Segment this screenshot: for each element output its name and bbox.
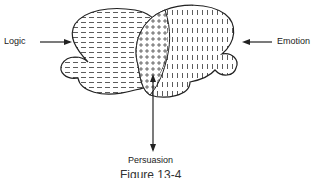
emotion-label: Emotion <box>277 36 310 46</box>
persuasion-label: Persuasion <box>128 155 173 165</box>
logic-label: Logic <box>4 36 26 46</box>
venn-diagram <box>0 0 313 178</box>
figure-caption: Figure 13-4 <box>120 168 181 178</box>
